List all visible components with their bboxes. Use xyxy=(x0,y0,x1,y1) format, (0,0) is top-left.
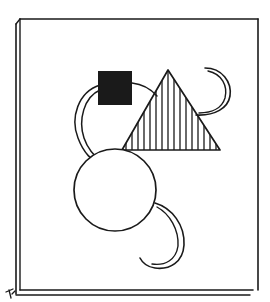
geometric-artwork xyxy=(0,0,270,302)
hatched-triangle xyxy=(122,60,220,155)
top-right-crescent xyxy=(196,68,230,115)
pen-nib-icon xyxy=(6,289,15,298)
white-circle xyxy=(74,149,156,231)
black-square xyxy=(98,71,132,105)
